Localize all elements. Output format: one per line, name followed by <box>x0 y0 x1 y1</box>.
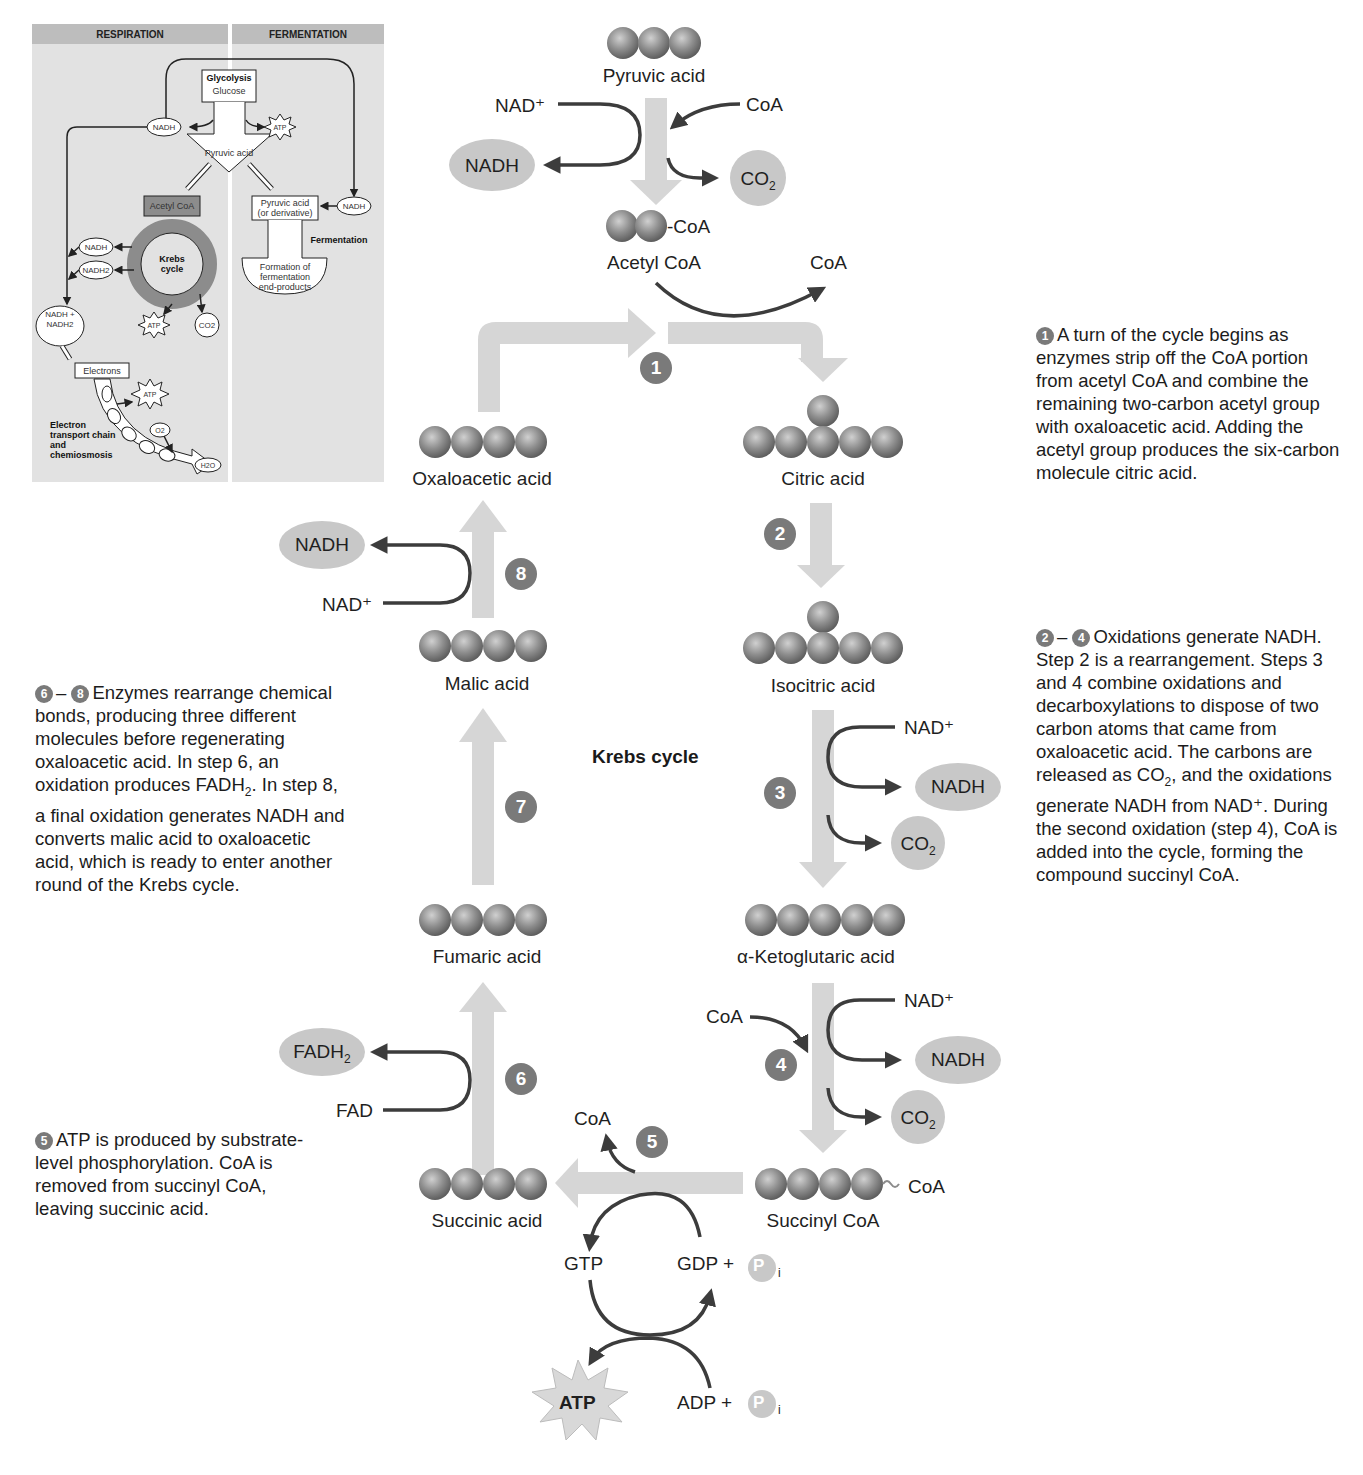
step-2-number: 2 <box>775 523 786 545</box>
label-coa-in-step4: CoA <box>706 1006 743 1028</box>
label-co2-top: CO2 <box>740 168 775 193</box>
step-4-number: 4 <box>776 1054 787 1076</box>
note-steps-6-8: 6– 8Enzymes rearrange chemical bonds, pr… <box>35 681 347 896</box>
label-fad: FAD <box>336 1100 373 1122</box>
label-gdp-plus: GDP + <box>677 1253 734 1275</box>
label-nad-plus-step3: NAD⁺ <box>904 716 954 739</box>
note-steps-2-4: 2– 4Oxidations generate NADH. Step 2 is … <box>1036 625 1346 886</box>
step-1-badge-icon: 1 <box>1036 327 1054 345</box>
step-6-badge-icon: 6 <box>35 685 53 703</box>
note-step-5: 5ATP is produced by substrate-level phos… <box>35 1128 325 1220</box>
step-2-badge-icon: 2 <box>1036 629 1054 647</box>
label-malic-acid: Malic acid <box>445 673 529 695</box>
step-5-badge-icon: 5 <box>35 1132 53 1150</box>
label-coa-out-step5: CoA <box>574 1108 611 1130</box>
label-succinic-acid: Succinic acid <box>432 1210 543 1232</box>
label-nadh-step8: NADH <box>295 534 349 556</box>
label-nadh-step4: NADH <box>931 1049 985 1071</box>
label-fumaric-acid: Fumaric acid <box>433 946 542 968</box>
label-co2-step3: CO2 <box>900 833 935 858</box>
note-step-1: 1A turn of the cycle begins as enzymes s… <box>1036 323 1346 484</box>
label-co2-step4: CO2 <box>900 1107 935 1132</box>
step-3-number: 3 <box>775 782 786 804</box>
label-succinyl-coa: Succinyl CoA <box>767 1210 880 1232</box>
label-nadh-step3: NADH <box>931 776 985 798</box>
succinyl-coa-bond <box>883 1181 899 1187</box>
step-5-number: 5 <box>647 1131 658 1153</box>
diagram-title: Krebs cycle <box>592 746 699 768</box>
step-8-number: 8 <box>516 563 527 585</box>
label-nad-plus-step4: NAD⁺ <box>904 989 954 1012</box>
label-fadh2: FADH2 <box>293 1041 350 1066</box>
label-nad-plus-step8: NAD⁺ <box>322 593 372 616</box>
label-nadh-top: NADH <box>465 155 519 177</box>
label-pyruvic-acid: Pyruvic acid <box>603 65 705 87</box>
label-adp-plus: ADP + <box>677 1392 732 1414</box>
label-nad-plus-top: NAD⁺ <box>495 94 545 117</box>
label-coa-out-step1: CoA <box>810 252 847 274</box>
step-8-badge-icon: 8 <box>71 685 89 703</box>
label-pi-gdp-sub: i <box>778 1266 781 1280</box>
label-succinyl-coa-tag: CoA <box>908 1176 945 1198</box>
label-coa-in-top: CoA <box>746 94 783 116</box>
label-gtp: GTP <box>564 1253 603 1275</box>
step-4-badge-icon: 4 <box>1072 629 1090 647</box>
label-pi-gdp: P <box>753 1256 764 1276</box>
label-acetyl-coa: Acetyl CoA <box>607 252 701 274</box>
label-citric-acid: Citric acid <box>781 468 864 490</box>
label-isocitric-acid: Isocitric acid <box>771 675 876 697</box>
label-acetyl-coa-tag: -CoA <box>667 216 710 238</box>
step-1-number: 1 <box>651 357 662 379</box>
step-7-number: 7 <box>516 796 527 818</box>
label-atp: ATP <box>559 1392 596 1414</box>
label-pi-adp-sub: i <box>778 1403 781 1417</box>
label-alpha-ketoglutaric-acid: α-Ketoglutaric acid <box>737 946 895 968</box>
step-6-number: 6 <box>516 1068 527 1090</box>
label-pi-adp: P <box>753 1393 764 1413</box>
label-oxaloacetic-acid: Oxaloacetic acid <box>412 468 551 490</box>
